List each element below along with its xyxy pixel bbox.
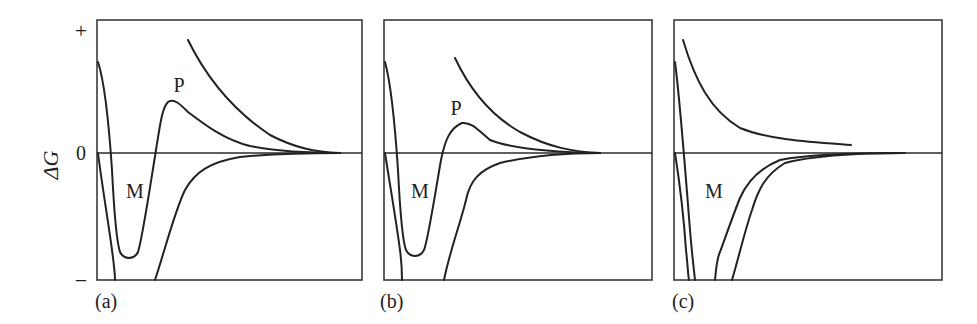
chart-svg: ΔG + 0 − M P (a) M P (b) M (c)	[0, 0, 977, 324]
label-M: M	[705, 180, 723, 202]
panel-a-label: (a)	[95, 290, 117, 313]
y-tick-plus: +	[75, 18, 87, 43]
repulsion-curve	[683, 40, 851, 145]
panel-c-frame	[674, 20, 942, 280]
panel-b-frame	[384, 20, 652, 280]
y-tick-minus: −	[75, 268, 87, 293]
panel-a: M P (a)	[95, 20, 362, 313]
attraction-curve-inner	[715, 153, 900, 280]
label-P: P	[173, 74, 184, 96]
panel-c: M (c)	[672, 20, 942, 313]
figure: ΔG + 0 − M P (a) M P (b) M (c)	[0, 0, 977, 324]
panel-b-label: (b)	[380, 290, 403, 313]
attraction-curve	[444, 153, 600, 280]
total-energy-curve	[98, 62, 340, 258]
repulsion-curve	[455, 58, 600, 153]
total-energy-curve	[385, 62, 600, 256]
panel-c-label: (c)	[672, 290, 694, 313]
label-M: M	[126, 180, 144, 202]
attraction-curve	[155, 153, 340, 280]
repulsion-curve	[188, 40, 340, 153]
y-tick-zero: 0	[76, 142, 86, 164]
y-axis-label: ΔG	[38, 150, 63, 180]
label-P: P	[450, 97, 461, 119]
panel-b: M P (b)	[380, 20, 652, 313]
label-M: M	[411, 180, 429, 202]
born-repulsion-curve	[385, 153, 402, 280]
born-repulsion-curve	[675, 153, 689, 280]
panel-a-frame	[97, 20, 362, 280]
